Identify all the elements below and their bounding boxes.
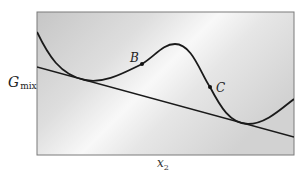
x-axis-label-main: x [157, 156, 164, 170]
y-axis-label-main: G [8, 74, 19, 90]
point-c-label: C [216, 81, 225, 95]
gibbs-mixing-diagram: B C Gmix x2 [0, 0, 305, 173]
point-c-marker [208, 85, 212, 89]
plot-frame [37, 12, 294, 155]
point-b-label: B [129, 51, 139, 65]
y-axis-label: Gmix [8, 74, 37, 91]
diagram-canvas: B C [0, 0, 305, 173]
y-axis-label-sub: mix [20, 81, 37, 91]
x-axis-label-sub: 2 [164, 163, 169, 172]
point-b-marker [140, 62, 144, 66]
x-axis-label: x2 [157, 156, 169, 172]
